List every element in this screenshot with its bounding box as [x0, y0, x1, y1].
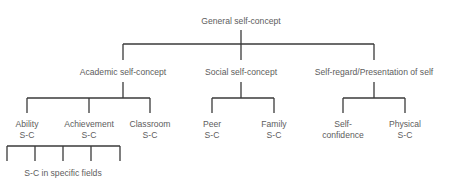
node-achievement-sc: Achievement S-C — [64, 119, 114, 140]
node-classroom-sc: Classroom S-C — [129, 119, 170, 140]
self-concept-hierarchy-diagram: General self-concept Academic self-conce… — [0, 0, 451, 193]
node-self-regard: Self-regard/Presentation of self — [315, 67, 433, 78]
connector-lines — [0, 0, 451, 193]
node-sc-specific-fields: S-C in specific fields — [24, 168, 101, 179]
node-general-self-concept: General self-concept — [201, 16, 280, 27]
node-social-self-concept: Social self-concept — [205, 67, 277, 78]
node-physical-sc: Physical S-C — [389, 119, 421, 140]
node-family-sc: Family S-C — [261, 119, 286, 140]
node-academic-self-concept: Academic self-concept — [80, 67, 166, 78]
node-ability-sc: Ability S-C — [16, 119, 39, 140]
node-self-confidence: Self- confidence — [322, 119, 364, 140]
node-peer-sc: Peer S-C — [203, 119, 221, 140]
